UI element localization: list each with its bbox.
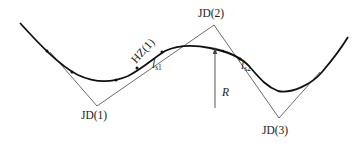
tangent-line: [50, 25, 320, 118]
spiral-length-1-label: ls1: [152, 58, 162, 72]
alignment-diagram: JD(1) JD(2) JD(3) HZ(1) ls1 ls2 R: [0, 0, 361, 146]
curve-point-marker: [46, 50, 49, 53]
alignment-curve: [20, 23, 348, 92]
spiral-length-2-sub: s2: [244, 64, 251, 73]
radius-label: R: [221, 86, 229, 98]
curve-point-marker: [222, 50, 224, 52]
jd1-label: JD(1): [81, 109, 107, 122]
curve-point-marker: [115, 79, 118, 82]
spiral-length-1-sub: s1: [155, 63, 162, 72]
curve-point-marker: [161, 51, 164, 54]
spiral-length-2-label: ls2: [241, 59, 251, 73]
jd3-label: JD(3): [262, 124, 288, 137]
curve-point-marker: [136, 67, 139, 70]
jd2-label: JD(2): [198, 7, 224, 20]
curve-point-marker: [71, 71, 74, 74]
